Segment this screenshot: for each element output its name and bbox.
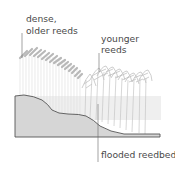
- label-flooded-reedbed: flooded reedbed: [101, 149, 175, 160]
- reedbed-diagram: dense, older reeds younger reeds flooded…: [0, 0, 175, 175]
- label-older-reeds-line1: dense,: [26, 13, 57, 24]
- younger-reed-plumes: [82, 66, 152, 88]
- label-older-reeds-line2: older reeds: [26, 25, 78, 36]
- label-younger-reeds-line1: younger: [101, 33, 139, 44]
- label-younger-reeds-line2: reeds: [101, 44, 127, 55]
